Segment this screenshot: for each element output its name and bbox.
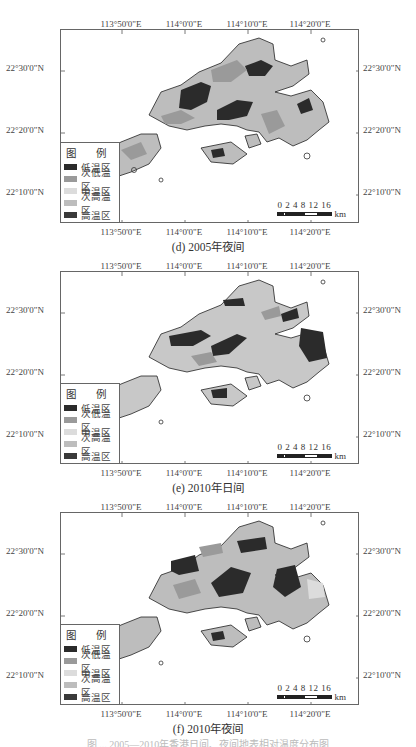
x-tick-label-bottom: 114°20'0"E: [289, 227, 330, 237]
legend-swatch-icon: [64, 164, 77, 170]
y-tick-label-left: 22°20'0"N: [6, 608, 44, 618]
legend-swatch-icon: [64, 200, 77, 206]
x-tick-label-top: 113°50'0"E: [100, 502, 141, 512]
legend-swatch-icon: [64, 429, 77, 435]
map-frame: 图 例 低温区 次低温区 中温区 次高温区 高温区 0 2 4 8 12 16 …: [60, 271, 359, 464]
legend-title: 图 例: [64, 386, 116, 401]
x-tick-label-top: 114°0'0"E: [166, 261, 203, 271]
x-tick-label-top: 114°0'0"E: [166, 19, 203, 29]
x-tick-label-top: 114°20'0"E: [289, 502, 330, 512]
y-tick-label-left: 22°10'0"N: [6, 429, 44, 439]
x-tick-label-bottom: 113°50'0"E: [100, 709, 141, 719]
y-tick-label-right: 22°10'0"N: [363, 429, 401, 439]
legend-swatch-icon: [64, 212, 77, 218]
y-tick-label-right: 22°30'0"N: [363, 305, 401, 315]
legend-swatch-icon: [64, 188, 77, 194]
panel-caption: (f) 2010年夜间: [0, 720, 416, 736]
y-tick-label-right: 22°20'0"N: [363, 125, 401, 135]
x-tick-label-top: 114°10'0"E: [226, 261, 267, 271]
x-tick-label-bottom: 114°10'0"E: [226, 227, 267, 237]
x-tick-label-bottom: 114°10'0"E: [226, 709, 267, 719]
legend-swatch-icon: [64, 453, 77, 459]
y-tick-label-right: 22°10'0"N: [363, 670, 401, 680]
scale-unit: km: [334, 692, 346, 702]
y-tick-label-left: 22°30'0"N: [6, 546, 44, 556]
legend-title: 图 例: [64, 145, 116, 160]
y-tick-label-right: 22°20'0"N: [363, 367, 401, 377]
figure-caption: 图 ... 2005—2010年香港日间、夜间地表相对温度分布图: [0, 738, 416, 747]
x-tick-label-top: 113°50'0"E: [100, 261, 141, 271]
scale-unit: km: [334, 209, 346, 219]
legend-swatch-icon: [64, 405, 77, 411]
legend-swatch-icon: [64, 670, 77, 676]
x-tick-label-bottom: 114°20'0"E: [289, 709, 330, 719]
x-tick-label-bottom: 113°50'0"E: [100, 227, 141, 237]
legend-swatch-icon: [64, 176, 77, 182]
x-tick-label-top: 114°20'0"E: [289, 261, 330, 271]
scale-unit: km: [334, 451, 346, 461]
legend: 图 例 低温区 次低温区 中温区 次高温区 高温区: [60, 383, 120, 464]
map-frame: 图 例 低温区 次低温区 中温区 次高温区 高温区 0 2 4 8 12 16 …: [60, 29, 359, 223]
x-tick-label-bottom: 113°50'0"E: [100, 468, 141, 478]
y-tick-label-left: 22°20'0"N: [6, 367, 44, 377]
legend-item: 高温区: [64, 691, 116, 703]
scale-bar: 0 2 4 8 12 16 km: [277, 442, 346, 459]
x-tick-label-bottom: 114°0'0"E: [166, 227, 203, 237]
x-tick-label-bottom: 114°0'0"E: [166, 468, 203, 478]
legend-swatch-icon: [64, 694, 77, 700]
legend-swatch-icon: [64, 646, 77, 652]
y-tick-label-right: 22°20'0"N: [363, 608, 401, 618]
legend-swatch-icon: [64, 658, 77, 664]
x-tick-label-top: 114°10'0"E: [226, 19, 267, 29]
x-tick-label-bottom: 114°20'0"E: [289, 468, 330, 478]
y-tick-label-left: 22°10'0"N: [6, 187, 44, 197]
panel-d: 113°50'0"E 114°0'0"E 114°10'0"E 114°20'0…: [0, 0, 416, 250]
scale-bar: 0 2 4 8 12 16 km: [277, 200, 346, 217]
x-tick-label-top: 114°0'0"E: [166, 502, 203, 512]
map-frame: 图 例 低温区 次低温区 中温区 次高温区 高温区 0 2 4 8 12 16 …: [60, 512, 359, 705]
legend-item: 高温区: [64, 209, 116, 221]
x-tick-label-top: 113°50'0"E: [100, 19, 141, 29]
x-tick-label-top: 114°20'0"E: [289, 19, 330, 29]
x-tick-label-bottom: 114°0'0"E: [166, 709, 203, 719]
scale-bar: 0 2 4 8 12 16 km: [277, 683, 346, 700]
legend-swatch-icon: [64, 441, 77, 447]
x-tick-label-top: 114°10'0"E: [226, 502, 267, 512]
y-tick-label-right: 22°10'0"N: [363, 187, 401, 197]
y-tick-label-left: 22°30'0"N: [6, 63, 44, 73]
y-tick-label-right: 22°30'0"N: [363, 546, 401, 556]
legend: 图 例 低温区 次低温区 中温区 次高温区 高温区: [60, 624, 120, 705]
y-tick-label-left: 22°30'0"N: [6, 305, 44, 315]
legend-title: 图 例: [64, 627, 116, 642]
x-tick-label-bottom: 114°10'0"E: [226, 468, 267, 478]
legend-swatch-icon: [64, 417, 77, 423]
legend: 图 例 低温区 次低温区 中温区 次高温区 高温区: [60, 142, 120, 223]
y-tick-label-right: 22°30'0"N: [363, 63, 401, 73]
panel-e: 113°50'0"E 114°0'0"E 114°10'0"E 114°20'0…: [0, 242, 416, 492]
legend-swatch-icon: [64, 682, 77, 688]
y-tick-label-left: 22°10'0"N: [6, 670, 44, 680]
panel-f: 113°50'0"E 114°0'0"E 114°10'0"E 114°20'0…: [0, 483, 416, 733]
legend-item: 高温区: [64, 450, 116, 462]
y-tick-label-left: 22°20'0"N: [6, 125, 44, 135]
